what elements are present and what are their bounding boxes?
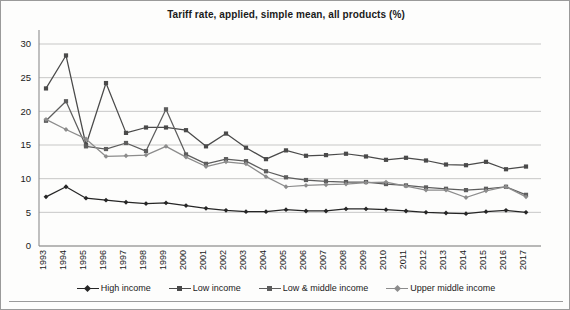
- data-point: [164, 125, 168, 129]
- data-point: [164, 201, 169, 206]
- data-point: [184, 128, 188, 132]
- data-point: [64, 53, 68, 57]
- data-point: [384, 207, 389, 212]
- data-point: [64, 127, 69, 132]
- x-tick-2013: 2013: [438, 250, 448, 270]
- data-point: [144, 153, 149, 158]
- legend-item-high-income[interactable]: High income: [77, 283, 151, 293]
- chart-container: Tariff rate, applied, simple mean, all p…: [0, 0, 570, 310]
- y-tick-20: 20: [20, 106, 31, 117]
- x-tick-2000: 2000: [178, 250, 188, 270]
- data-point: [384, 158, 388, 162]
- x-tick-2005: 2005: [278, 250, 288, 270]
- x-tick-2002: 2002: [218, 250, 228, 270]
- x-tick-2007: 2007: [318, 250, 328, 270]
- data-point: [464, 195, 469, 200]
- data-point: [364, 154, 368, 158]
- y-tick-15: 15: [20, 139, 31, 150]
- data-point: [284, 148, 288, 152]
- series-low-income: [44, 53, 528, 171]
- data-point: [184, 203, 189, 208]
- data-point: [424, 158, 428, 162]
- data-point: [504, 167, 508, 171]
- x-tick-2004: 2004: [258, 250, 268, 270]
- series-low-middle-income: [44, 99, 528, 197]
- data-point: [304, 154, 308, 158]
- legend-item-upper-middle-income[interactable]: Upper middle income: [386, 283, 495, 293]
- x-tick-1998: 1998: [138, 250, 148, 270]
- data-point: [264, 169, 268, 173]
- data-point: [464, 188, 468, 192]
- data-point: [104, 198, 109, 203]
- data-point: [144, 149, 148, 153]
- data-point: [284, 207, 289, 212]
- legend-item-low-income[interactable]: Low income: [169, 283, 241, 293]
- data-point: [344, 207, 349, 212]
- legend-item-label: Upper middle income: [410, 283, 495, 293]
- data-point: [264, 209, 269, 214]
- data-point: [224, 131, 228, 135]
- data-point: [44, 86, 48, 90]
- data-point: [144, 201, 149, 206]
- x-tick-2003: 2003: [238, 250, 248, 270]
- data-point: [164, 107, 168, 111]
- series-upper-middle-income: [44, 117, 529, 200]
- data-point: [204, 144, 208, 148]
- x-axis-tick-labels: 1993199419951996199719981999200020012002…: [38, 250, 528, 270]
- y-tick-25: 25: [20, 72, 31, 83]
- legend-item-low-middle-income[interactable]: Low & middle income: [259, 283, 369, 293]
- x-tick-2006: 2006: [298, 250, 308, 270]
- data-point: [304, 178, 308, 182]
- legend-item-label: Low & middle income: [283, 283, 369, 293]
- legend-marker-icon: [386, 284, 408, 293]
- data-point: [244, 209, 249, 214]
- legend-marker-icon: [77, 284, 99, 293]
- y-tick-10: 10: [20, 173, 31, 184]
- data-point: [304, 183, 309, 188]
- data-point: [324, 153, 328, 157]
- chart-legend: High incomeLow incomeLow & middle income…: [1, 283, 570, 293]
- x-tick-1995: 1995: [78, 250, 88, 270]
- data-point: [444, 211, 449, 216]
- x-tick-1994: 1994: [58, 250, 68, 270]
- x-tick-2001: 2001: [198, 250, 208, 270]
- data-point: [64, 99, 68, 103]
- legend-item-label: High income: [101, 283, 151, 293]
- x-tick-2014: 2014: [458, 250, 468, 270]
- x-tick-2017: 2017: [518, 250, 528, 270]
- data-point: [124, 153, 129, 158]
- data-point: [524, 210, 529, 215]
- data-point: [284, 184, 289, 189]
- legend-marker-icon: [169, 284, 191, 293]
- data-point: [84, 144, 88, 148]
- data-point: [104, 81, 108, 85]
- data-point: [484, 160, 488, 164]
- x-tick-2008: 2008: [338, 250, 348, 270]
- y-tick-0: 0: [26, 240, 31, 251]
- data-point: [124, 131, 128, 135]
- chart-plot-area: 051015202530 199319941995199619971998199…: [1, 1, 570, 310]
- y-axis-tick-labels: 051015202530: [20, 38, 31, 251]
- x-tick-2016: 2016: [498, 250, 508, 270]
- data-point: [484, 209, 489, 214]
- data-point: [124, 141, 128, 145]
- x-tick-2009: 2009: [358, 250, 368, 270]
- y-tick-5: 5: [26, 207, 31, 218]
- legend-divider: [9, 301, 563, 302]
- data-point: [44, 194, 49, 199]
- legend-item-label: Low income: [193, 283, 241, 293]
- x-tick-2015: 2015: [478, 250, 488, 270]
- data-point: [204, 206, 209, 211]
- data-point: [444, 162, 448, 166]
- data-point: [244, 146, 248, 150]
- data-point: [124, 200, 129, 205]
- data-point: [404, 156, 408, 160]
- x-tick-1996: 1996: [98, 250, 108, 270]
- x-tick-2011: 2011: [398, 250, 408, 269]
- x-tick-2010: 2010: [378, 250, 388, 270]
- y-tick-30: 30: [20, 38, 31, 49]
- data-point: [464, 163, 468, 167]
- legend-marker-icon: [259, 284, 281, 293]
- data-point: [284, 175, 288, 179]
- data-point: [104, 147, 108, 151]
